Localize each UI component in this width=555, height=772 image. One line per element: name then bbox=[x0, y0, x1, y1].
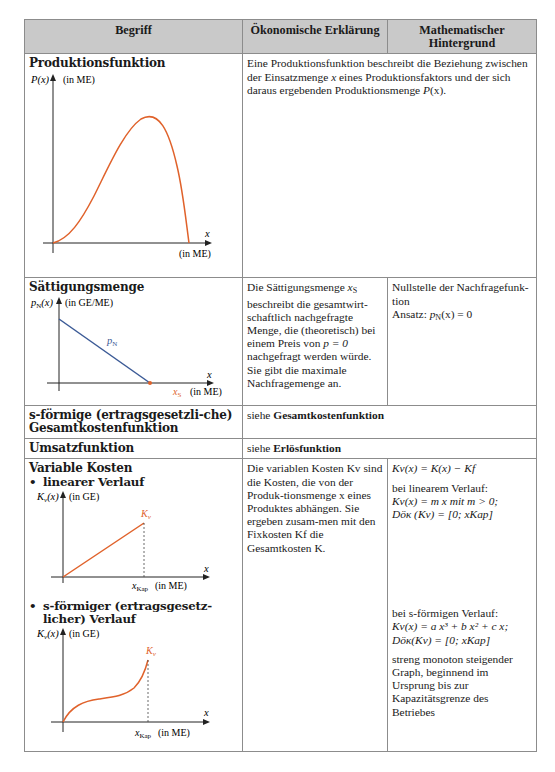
capacity-marker-label: xKap bbox=[134, 727, 152, 740]
y-axis-label: pN(x) bbox=[30, 297, 53, 310]
curve-label: Kv bbox=[145, 645, 157, 658]
cell-term: Umsatzfunktion bbox=[25, 439, 243, 459]
y-axis-label: P(x) bbox=[30, 74, 50, 86]
linear-cost-line bbox=[63, 523, 144, 577]
arrow-up-icon bbox=[60, 491, 66, 498]
cell-reference: siehe Erlösfunktion bbox=[243, 439, 537, 459]
demand-line bbox=[59, 319, 150, 383]
var-p: P bbox=[423, 84, 430, 96]
explanation-text: Die Sättigungsmenge bbox=[247, 281, 348, 293]
cell-math: Nullstelle der Nachfragefunk-tion Ansatz… bbox=[388, 278, 537, 405]
saettigungsmenge-graph: pN(x) (in GE/ME) pN x xS (in ME) bbox=[29, 295, 234, 399]
y-axis-label: Kv(x) bbox=[36, 491, 59, 504]
header-begriff: Begriff bbox=[25, 20, 243, 54]
curve-label: Kv bbox=[140, 508, 152, 521]
cell-explanation: Die Sättigungsmenge xS beschreibt die ge… bbox=[243, 278, 388, 405]
table-row: s-förmige (ertragsgesetzli-che) Gesamtko… bbox=[25, 405, 537, 438]
math-s-formula: Kv(x) = a x³ + b x² + c x; bbox=[392, 620, 532, 633]
math-linear-title: bei linearem Verlauf: bbox=[392, 482, 532, 495]
arrow-up-icon bbox=[56, 297, 62, 304]
arrow-right-icon bbox=[205, 240, 212, 246]
x-axis-unit: (in ME) bbox=[179, 248, 211, 260]
term-produktionsfunktion: Produktionsfunktion bbox=[29, 57, 238, 70]
ref-prefix: siehe bbox=[247, 409, 273, 421]
ref-link-erloesfunktion: Erlösfunktion bbox=[273, 442, 341, 454]
arrow-right-icon bbox=[203, 574, 210, 580]
x-axis-unit: (in ME) bbox=[190, 386, 222, 398]
header-oekonomische-erklaerung: Ökonomische Erklärung bbox=[243, 20, 388, 54]
production-curve bbox=[53, 116, 189, 242]
produktionsfunktion-graph: P(x) (in ME) x (in ME) bbox=[29, 71, 234, 271]
term-variable-kosten: Variable Kosten bbox=[29, 462, 238, 475]
demand-line-label: pN bbox=[106, 335, 117, 348]
cell-explanation: Die variablen Kosten Kv sind die Kosten,… bbox=[243, 459, 388, 751]
table-row: Sättigungsmenge pN(x) (in GE/ME) pN x xS… bbox=[25, 278, 537, 405]
explanation-text: Die variablen Kosten Kv sind die Kosten,… bbox=[247, 462, 383, 554]
x-axis-label: x bbox=[206, 369, 212, 380]
x-axis-label: x bbox=[203, 707, 209, 718]
table-header-row: Begriff Ökonomische Erklärung Mathematis… bbox=[25, 20, 537, 54]
cell-math: Kv(x) = K(x) − Kf bei linearem Verlauf: … bbox=[388, 459, 537, 751]
explanation-text: nachgefragt werden würde. Sie gibt die m… bbox=[247, 350, 371, 388]
table-row: Variable Kosten •linearer Verlauf Kv(x) … bbox=[25, 459, 537, 751]
s-cost-curve bbox=[63, 660, 148, 722]
term-umsatzfunktion: Umsatzfunktion bbox=[29, 442, 238, 455]
x-axis-unit: (in ME) bbox=[155, 580, 187, 592]
variable-kosten-linear-graph: Kv(x) (in GE) Kv x xKap (in ME) bbox=[29, 489, 234, 597]
arrow-up-icon bbox=[50, 74, 56, 81]
table-row: Umsatzfunktion siehe Erlösfunktion bbox=[25, 439, 537, 459]
cell-explanation: Eine Produktionsfunktion beschreibt die … bbox=[243, 54, 537, 278]
ref-link-gesamtkostenfunktion: Gesamtkostenfunktion bbox=[273, 409, 384, 421]
saturation-point bbox=[148, 381, 152, 385]
x-axis-label: x bbox=[203, 563, 209, 574]
math-s-title: bei s-förmigen Verlauf: bbox=[392, 607, 532, 620]
sub-s: S bbox=[353, 286, 357, 295]
math-s-domain: Döк(Kv) = [0; xKap] bbox=[392, 634, 532, 647]
math-formula: Ansatz: pN(x) = 0 bbox=[392, 308, 532, 324]
capacity-marker-label: xKap bbox=[131, 580, 149, 593]
math-linear-formula: Kv(x) = m x mit m > 0; bbox=[392, 495, 532, 508]
variable-kosten-s-graph: Kv(x) (in GE) Kv x xKap (in ME) bbox=[29, 626, 234, 744]
math-definition: Kv(x) = K(x) − Kf bbox=[392, 462, 475, 474]
x-axis-unit: (in ME) bbox=[158, 727, 190, 739]
y-axis-unit: (in GE/ME) bbox=[65, 297, 113, 309]
y-axis-label: Kv(x) bbox=[36, 628, 59, 641]
table-row: Produktionsfunktion P(x) (in ME) x (in M… bbox=[25, 54, 537, 278]
term-s-gesamtkosten: s-förmige (ertragsgesetzli-che) Gesamtko… bbox=[29, 409, 238, 435]
bullet-linear: •linearer Verlauf bbox=[29, 476, 238, 489]
explanation-text: (x). bbox=[430, 84, 446, 96]
cell-term: Variable Kosten •linearer Verlauf Kv(x) … bbox=[25, 459, 243, 751]
term-saettigungsmenge: Sättigungsmenge bbox=[29, 281, 238, 294]
y-axis-unit: (in GE) bbox=[69, 491, 99, 503]
cell-term: s-förmige (ertragsgesetzli-che) Gesamtko… bbox=[25, 405, 243, 438]
explanation-text: beschreibt die gesamtwirt-schaftlich nac… bbox=[247, 298, 375, 350]
math-text: Nullstelle der Nachfragefunk-tion bbox=[392, 281, 532, 307]
cell-reference: siehe Gesamtkostenfunktion bbox=[243, 405, 537, 438]
arrow-right-icon bbox=[203, 719, 210, 725]
bullet-s-foermig: •s-förmiger (ertragsgesetz-licher) Verla… bbox=[29, 600, 238, 626]
x-axis-label: x bbox=[204, 228, 210, 239]
ref-prefix: siehe bbox=[247, 442, 273, 454]
arrow-up-icon bbox=[60, 628, 66, 635]
saturation-marker-label: xS bbox=[172, 386, 181, 399]
y-axis-unit: (in GE) bbox=[69, 628, 99, 640]
formula-p0: p = 0 bbox=[323, 337, 348, 349]
math-s-note: streng monoton steigender Graph, beginne… bbox=[392, 653, 532, 719]
header-mathematischer-hintergrund: Mathematischer Hintergrund bbox=[388, 20, 537, 54]
cell-term: Produktionsfunktion P(x) (in ME) x (in M… bbox=[25, 54, 243, 278]
cell-term: Sättigungsmenge pN(x) (in GE/ME) pN x xS… bbox=[25, 278, 243, 405]
math-linear-domain: Döк (Kv) = [0; xKap] bbox=[392, 508, 532, 521]
y-axis-unit: (in ME) bbox=[63, 74, 95, 86]
glossary-table: Begriff Ökonomische Erklärung Mathematis… bbox=[24, 19, 537, 752]
